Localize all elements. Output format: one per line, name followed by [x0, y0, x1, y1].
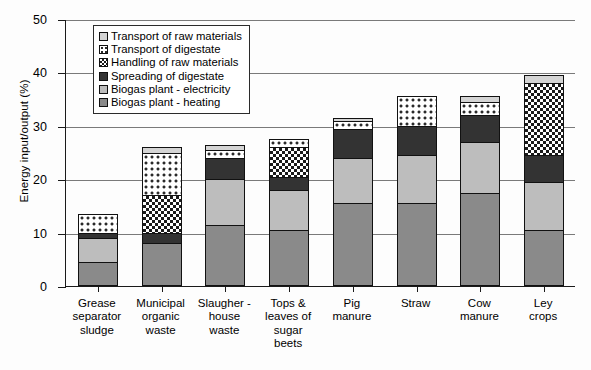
- bar-1[interactable]: [78, 214, 118, 286]
- bar-segment[interactable]: [142, 243, 182, 286]
- bar-segment[interactable]: [142, 195, 182, 232]
- bar-segment[interactable]: [78, 238, 118, 262]
- chart-legend: Transport of raw materialsTransport of d…: [93, 25, 250, 114]
- x-axis-label-7: Cowmanure: [448, 297, 510, 324]
- x-axis-labels: GreaseseparatorsludgeMunicipalorganicwas…: [65, 291, 575, 370]
- x-axis-label-line: sludge: [66, 324, 128, 337]
- bar-segment[interactable]: [269, 147, 309, 176]
- legend-label: Transport of digestate: [111, 43, 220, 56]
- y-tick-label-40: 40: [33, 66, 47, 80]
- x-axis-label-line: crops: [512, 310, 574, 323]
- legend-swatch-icon: [99, 45, 108, 54]
- x-axis-label-line: leaves of: [257, 310, 319, 323]
- bar-8[interactable]: [524, 75, 564, 286]
- bar-segment[interactable]: [142, 147, 182, 152]
- y-axis-title: Energy input/output (%): [18, 31, 30, 251]
- legend-swatch-icon: [99, 58, 108, 67]
- y-tick-label-0: 0: [40, 280, 47, 294]
- bar-segment[interactable]: [205, 150, 245, 158]
- bar-segment[interactable]: [142, 233, 182, 244]
- y-tick-label-20: 20: [33, 173, 47, 187]
- legend-item-3[interactable]: Handling of raw materials: [99, 56, 242, 69]
- bar-segment[interactable]: [397, 96, 437, 125]
- x-axis-label-line: sugar: [257, 324, 319, 337]
- bar-segment[interactable]: [397, 126, 437, 155]
- bar-5[interactable]: [333, 118, 373, 286]
- bar-segment[interactable]: [524, 230, 564, 286]
- bar-segment[interactable]: [460, 102, 500, 115]
- y-tick-40: 40: [58, 73, 66, 74]
- bar-segment[interactable]: [460, 115, 500, 142]
- legend-swatch-icon: [99, 72, 108, 81]
- x-axis-label-line: Pig: [321, 297, 383, 310]
- bar-2[interactable]: [142, 147, 182, 286]
- bar-segment[interactable]: [78, 214, 118, 233]
- legend-swatch-icon: [99, 32, 108, 41]
- x-axis-label-5: Pigmanure: [321, 297, 383, 324]
- bar-segment[interactable]: [269, 190, 309, 230]
- x-axis-label-line: Straw: [385, 297, 447, 310]
- bar-segment[interactable]: [269, 177, 309, 190]
- x-axis-label-line: Slaugher -: [193, 297, 255, 310]
- x-axis-label-line: Municipal: [130, 297, 192, 310]
- chart-figure: Energy input/output (%) 01020304050 Grea…: [0, 0, 591, 370]
- bar-segment[interactable]: [333, 121, 373, 129]
- x-axis-label-line: separator: [66, 310, 128, 323]
- bar-segment[interactable]: [142, 153, 182, 196]
- x-axis-label-2: Municipalorganicwaste: [130, 297, 192, 337]
- bar-segment[interactable]: [524, 155, 564, 182]
- legend-label: Biogas plant - heating: [111, 96, 220, 109]
- bar-segment[interactable]: [524, 182, 564, 230]
- bar-segment[interactable]: [333, 203, 373, 286]
- bar-segment[interactable]: [460, 96, 500, 101]
- bar-segment[interactable]: [333, 129, 373, 158]
- legend-item-1[interactable]: Transport of raw materials: [99, 30, 242, 43]
- x-axis-label-line: house: [193, 310, 255, 323]
- bar-segment[interactable]: [524, 83, 564, 155]
- bar-3[interactable]: [205, 145, 245, 286]
- x-axis-label-line: beets: [257, 337, 319, 350]
- x-axis-label-line: Tops &: [257, 297, 319, 310]
- x-axis-label-1: Greaseseparatorsludge: [66, 297, 128, 337]
- legend-swatch-icon: [99, 85, 108, 94]
- y-tick-20: 20: [58, 180, 66, 181]
- bar-segment[interactable]: [78, 262, 118, 286]
- y-tick-label-50: 50: [33, 13, 47, 27]
- x-axis-label-6: Straw: [385, 297, 447, 310]
- bar-segment[interactable]: [333, 158, 373, 203]
- legend-label: Transport of raw materials: [111, 30, 242, 43]
- bar-segment[interactable]: [205, 179, 245, 224]
- bar-segment[interactable]: [397, 155, 437, 203]
- legend-item-5[interactable]: Biogas plant - electricity: [99, 83, 242, 96]
- y-tick-10: 10: [58, 234, 66, 235]
- bar-segment[interactable]: [78, 233, 118, 238]
- bar-segment[interactable]: [524, 75, 564, 83]
- bar-segment[interactable]: [205, 145, 245, 150]
- x-axis-label-line: Cow: [448, 297, 510, 310]
- bar-6[interactable]: [397, 96, 437, 286]
- x-axis-label-4: Tops &leaves ofsugarbeets: [257, 297, 319, 351]
- x-axis-label-line: Grease: [66, 297, 128, 310]
- x-axis-label-8: Leycrops: [512, 297, 574, 324]
- bar-segment[interactable]: [205, 158, 245, 179]
- bar-segment[interactable]: [269, 230, 309, 286]
- bar-segment[interactable]: [333, 118, 373, 121]
- y-tick-0: 0: [58, 287, 66, 288]
- bar-segment[interactable]: [269, 139, 309, 147]
- legend-item-2[interactable]: Transport of digestate: [99, 43, 242, 56]
- legend-item-4[interactable]: Spreading of digestate: [99, 70, 242, 83]
- bar-segment[interactable]: [460, 193, 500, 286]
- bar-segment[interactable]: [397, 203, 437, 286]
- x-axis-label-line: manure: [321, 310, 383, 323]
- bar-segment[interactable]: [205, 225, 245, 286]
- bar-4[interactable]: [269, 139, 309, 286]
- legend-item-6[interactable]: Biogas plant - heating: [99, 96, 242, 109]
- bar-7[interactable]: [460, 96, 500, 286]
- legend-label: Spreading of digestate: [111, 70, 224, 83]
- legend-label: Handling of raw materials: [111, 56, 238, 69]
- y-tick-30: 30: [58, 127, 66, 128]
- legend-label: Biogas plant - electricity: [111, 83, 230, 96]
- y-tick-label-30: 30: [33, 120, 47, 134]
- x-axis-label-line: organic: [130, 310, 192, 323]
- bar-segment[interactable]: [460, 142, 500, 193]
